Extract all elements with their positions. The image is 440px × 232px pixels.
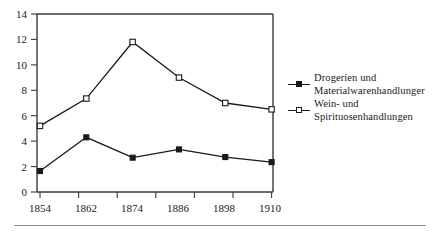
- y-tick-label: 8: [22, 84, 28, 96]
- data-point-marker: [223, 100, 228, 105]
- chart-figure: 14 12 10 8 6 4 2 0 1854 1862 1874 1886 1…: [0, 0, 440, 232]
- legend-label-line-2: Materialwarenhandlunger: [314, 85, 440, 98]
- data-point-marker: [37, 123, 42, 128]
- legend-key-open-square-icon: [288, 105, 310, 117]
- data-point-marker: [269, 160, 274, 165]
- plot-frame: [37, 14, 273, 192]
- data-point-marker: [223, 155, 228, 160]
- data-point-marker: [176, 75, 181, 80]
- y-tick-label: 10: [16, 59, 28, 71]
- y-axis-ticks: [31, 14, 37, 192]
- x-tick-label: 1874: [121, 202, 144, 214]
- legend-item-wein: Wein- und Spirituosenhandlungen: [288, 98, 440, 123]
- legend-key-filled-square-icon: [288, 79, 310, 91]
- y-tick-label: 0: [22, 186, 28, 198]
- legend-label-line-1: Drogerien und: [314, 72, 440, 85]
- legend-label-drogerien: Drogerien und Materialwarenhandlunger: [314, 72, 440, 97]
- series-drogerien: [38, 135, 275, 174]
- x-tick-label: 1886: [167, 202, 190, 214]
- x-tick-label: 1854: [29, 202, 52, 214]
- legend-label-wein: Wein- und Spirituosenhandlungen: [314, 98, 440, 123]
- data-point-marker: [84, 135, 89, 140]
- data-point-marker: [84, 96, 89, 101]
- data-point-marker: [130, 39, 135, 44]
- legend-item-drogerien: Drogerien und Materialwarenhandlunger: [288, 72, 440, 97]
- y-tick-label: 6: [22, 110, 28, 122]
- y-tick-label: 4: [22, 135, 28, 147]
- data-series-layer: [37, 39, 274, 173]
- x-axis-labels: 1854 1862 1874 1886 1898 1910: [29, 202, 282, 214]
- series-line: [40, 42, 272, 126]
- y-tick-label: 14: [16, 8, 28, 20]
- x-tick-label: 1862: [75, 202, 97, 214]
- data-point-marker: [269, 107, 274, 112]
- legend-label-line-1: Wein- und: [314, 98, 440, 111]
- series-line: [40, 137, 272, 171]
- chart-legend: Drogerien und Materialwarenhandlunger We…: [288, 72, 440, 124]
- x-tick-label: 1898: [213, 202, 236, 214]
- footer-divider: [14, 225, 426, 226]
- x-axis-ticks: [40, 192, 272, 198]
- x-tick-label: 1910: [259, 202, 282, 214]
- y-tick-label: 2: [22, 161, 28, 173]
- y-axis-labels: 14 12 10 8 6 4 2 0: [16, 8, 28, 198]
- legend-label-line-2: Spirituosenhandlungen: [314, 111, 440, 124]
- data-point-marker: [176, 147, 181, 152]
- data-point-marker: [38, 169, 43, 174]
- y-tick-label: 12: [16, 33, 27, 45]
- series-wein: [37, 39, 274, 128]
- data-point-marker: [130, 155, 135, 160]
